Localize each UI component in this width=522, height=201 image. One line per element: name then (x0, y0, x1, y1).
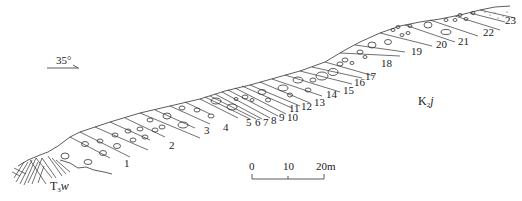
bed-label-20: 20 (436, 38, 448, 50)
ground-surface-profile (18, 6, 510, 166)
bed-label-18: 18 (381, 57, 393, 69)
bed-label-4: 4 (223, 121, 229, 133)
bed-label-14: 14 (326, 88, 338, 100)
bed-label-22: 22 (483, 26, 494, 38)
basal-contact-line (60, 160, 112, 174)
bed-label-23: 23 (505, 14, 517, 26)
bed-label-16: 16 (354, 76, 366, 88)
formation-label-k2j: K2j (418, 94, 434, 109)
bed-label-6: 6 (255, 116, 261, 128)
scale-bar: 0 10 20m (249, 160, 336, 179)
scale-tick-10: 10 (283, 160, 295, 172)
bed-label-7: 7 (263, 116, 269, 128)
bed-label-13: 13 (314, 96, 326, 108)
bed-label-19: 19 (411, 45, 423, 57)
bed-label-1: 1 (124, 157, 130, 169)
bed-label-3: 3 (204, 124, 210, 136)
cross-section-diagram: 35° T3w (0, 0, 522, 201)
scale-tick-20m: 20m (316, 160, 336, 172)
bed-labels: 1234567891011121314151617181920212223 (124, 14, 517, 169)
bed-label-2: 2 (169, 139, 175, 151)
bed-label-5: 5 (246, 116, 252, 128)
bed-boundaries (70, 10, 515, 158)
pebbles (61, 12, 475, 165)
bed-label-17: 17 (365, 70, 377, 82)
bed-label-12: 12 (301, 100, 312, 112)
bed-label-21: 21 (458, 35, 469, 47)
azimuth-label: 35° (56, 54, 71, 66)
bed-label-9: 9 (279, 111, 285, 123)
bed-label-11: 11 (289, 102, 300, 114)
bed-label-8: 8 (271, 114, 277, 126)
formation-label-t3w: T3w (50, 179, 69, 194)
orientation-indicator: 35° (47, 54, 79, 69)
scale-tick-0: 0 (249, 160, 255, 172)
bed-label-15: 15 (343, 84, 355, 96)
